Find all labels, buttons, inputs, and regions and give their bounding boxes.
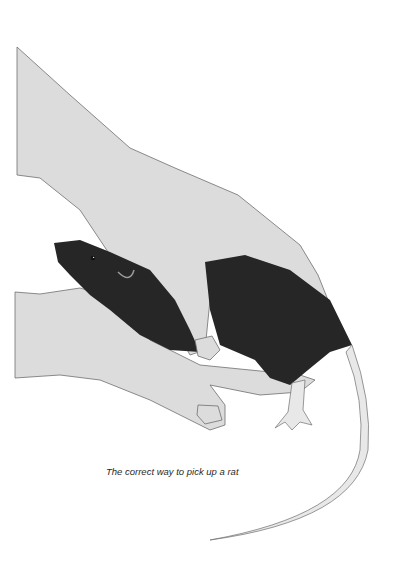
thumbnail bbox=[195, 336, 220, 360]
rat-eye bbox=[91, 256, 95, 260]
rat-body bbox=[205, 255, 352, 385]
figure-caption: The correct way to pick up a rat bbox=[106, 466, 239, 477]
rat-handling-illustration bbox=[0, 0, 397, 580]
